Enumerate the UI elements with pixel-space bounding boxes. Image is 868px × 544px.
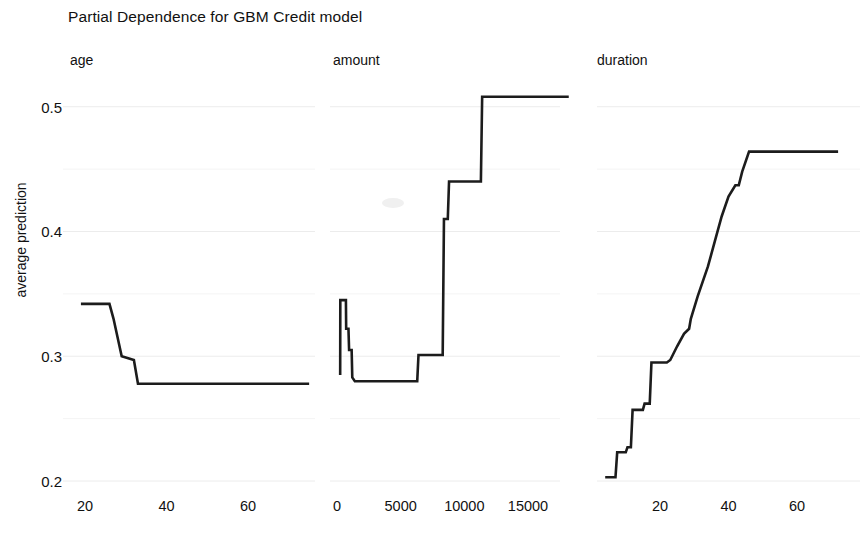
series-lines xyxy=(81,97,838,478)
series-line-duration xyxy=(605,152,838,478)
series-line-amount xyxy=(340,97,569,381)
gridlines xyxy=(63,107,860,481)
chart-canvas: Partial Dependence for GBM Credit model … xyxy=(0,0,868,544)
scan-artifact xyxy=(382,198,404,208)
plot-area xyxy=(0,0,868,544)
series-line-age xyxy=(81,304,309,384)
